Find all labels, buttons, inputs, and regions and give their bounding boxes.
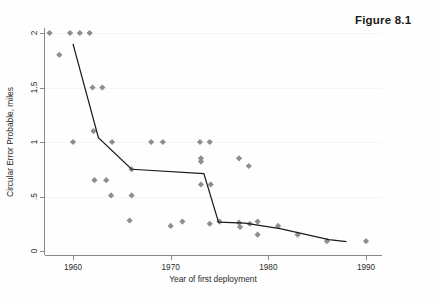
data-point-marker [236, 155, 242, 161]
data-point-marker [99, 84, 105, 90]
x-axis-title: Year of first deployment [169, 274, 257, 284]
data-point-marker [87, 30, 93, 36]
data-point-marker [77, 30, 83, 36]
data-point-marker [246, 163, 252, 169]
x-tick-label: 1990 [357, 263, 376, 272]
data-point-marker [129, 192, 135, 198]
data-point-marker [179, 218, 185, 224]
data-point-marker [67, 30, 73, 36]
y-tick-label: .5 [30, 193, 39, 200]
data-markers [46, 30, 369, 244]
data-point-marker [109, 139, 115, 145]
data-point-marker [197, 139, 203, 145]
data-point-marker [254, 232, 260, 238]
data-point-marker [168, 223, 174, 229]
data-point-marker [160, 139, 166, 145]
data-point-marker [46, 30, 52, 36]
gridlines [45, 34, 382, 198]
data-point-marker [89, 84, 95, 90]
data-point-marker [363, 238, 369, 244]
data-point-marker [254, 218, 260, 224]
x-tick-label: 1970 [162, 263, 181, 272]
y-tick-label: 1 [30, 139, 39, 144]
y-tick-label: 1.5 [30, 81, 39, 93]
data-point-marker [198, 181, 204, 187]
y-tick-label: 2 [30, 30, 39, 35]
x-axis-ticks: 1960197019801990 [64, 256, 376, 273]
y-axis-ticks: 0.511.52 [30, 30, 44, 253]
scatter-plot: 0.511.52 1960197019801990 Circular Error… [0, 0, 400, 300]
data-point-marker [198, 159, 204, 165]
y-axis-title: Circular Error Probable, miles [5, 87, 15, 197]
figure-container: Figure 8.1 0.511.52 1960197019801990 Cir… [0, 0, 441, 305]
data-point-marker [237, 224, 243, 230]
data-point-marker [207, 221, 213, 227]
plot-svg: 0.511.52 1960197019801990 Circular Error… [0, 0, 400, 300]
y-tick-label: 0 [30, 248, 39, 253]
data-point-marker [127, 217, 133, 223]
x-tick-label: 1980 [259, 263, 278, 272]
data-point-marker [91, 177, 97, 183]
data-point-marker [108, 192, 114, 198]
data-point-marker [148, 139, 154, 145]
data-point-marker [70, 139, 76, 145]
data-point-marker [56, 52, 62, 58]
x-tick-label: 1960 [64, 263, 83, 272]
data-point-marker [207, 139, 213, 145]
data-point-marker [103, 177, 109, 183]
data-point-marker [208, 181, 214, 187]
